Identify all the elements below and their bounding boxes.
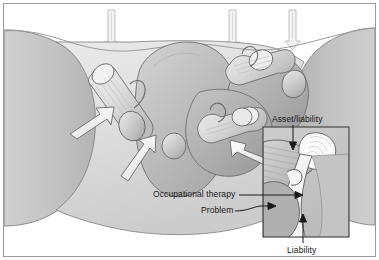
node-center xyxy=(162,133,186,159)
illustration-figure: Asset/liability Occupational therapy Pro… xyxy=(0,0,379,260)
figure-frame: Asset/liability Occupational therapy Pro… xyxy=(3,3,376,257)
label-problem: Problem xyxy=(201,205,233,215)
node-mid-right xyxy=(232,108,252,126)
label-occupational-therapy: Occupational therapy xyxy=(153,189,235,199)
illustration-canvas xyxy=(4,4,375,256)
detail-inset xyxy=(263,127,349,240)
label-liability: Liability xyxy=(287,245,316,255)
label-asset-liability: Asset/liability xyxy=(272,114,323,124)
